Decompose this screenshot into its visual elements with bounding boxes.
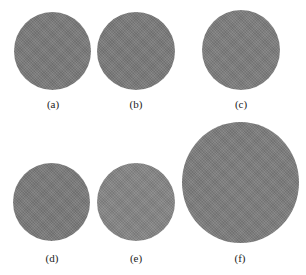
- panel-e-disk: [97, 163, 175, 241]
- panel-c-disk: [202, 10, 280, 90]
- panel-d-label: (d): [32, 252, 72, 264]
- panel-a-label: (a): [33, 98, 73, 110]
- panel-f-label: (f): [220, 252, 260, 264]
- panel-b-label: (b): [116, 98, 156, 110]
- panel-e-label: (e): [116, 252, 156, 264]
- panel-f-disk: [182, 122, 299, 243]
- panel-a-disk: [14, 12, 91, 90]
- panel-c-label: (c): [221, 98, 261, 110]
- panel-b-disk: [97, 12, 175, 90]
- figure: (a) (b) (c) (d) (e) (f): [0, 0, 306, 275]
- panel-d-disk: [13, 163, 90, 241]
